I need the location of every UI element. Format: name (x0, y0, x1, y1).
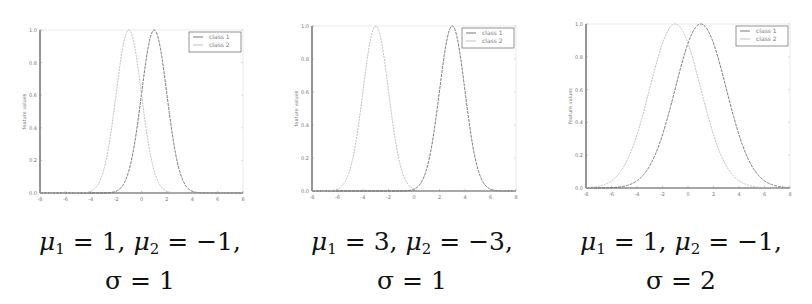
mu2-value: = −1, (700, 227, 782, 256)
x-tick-label: 8 (514, 194, 517, 200)
y-tick-label: 0.6 (301, 89, 309, 95)
panel-1: -8-6-4-2024680.00.20.40.60.81.0feature v… (0, 0, 270, 304)
x-tick-label: -2 (386, 194, 391, 200)
y-tick-label: 0.2 (575, 152, 583, 158)
x-tick-label: 2 (712, 191, 715, 197)
sigma-value: σ = 1 (5, 265, 275, 296)
y-tick-label: 0.4 (301, 122, 309, 128)
y-tick-label: 1.0 (301, 23, 309, 29)
curve-class-2 (586, 24, 790, 188)
x-tick-label: -8 (584, 191, 589, 197)
y-tick-label: 0.0 (301, 188, 309, 194)
legend-label: class 1 (756, 27, 777, 34)
sigma-value: σ = 2 (550, 265, 812, 296)
sigma-value: σ = 1 (277, 265, 547, 296)
plot-frame (586, 24, 790, 188)
y-tick-label: 0.0 (575, 185, 583, 191)
x-tick-label: 4 (737, 191, 740, 197)
legend-label: class 2 (756, 35, 777, 42)
curve-class-2 (40, 30, 243, 193)
x-tick-label: -4 (361, 194, 366, 200)
mu1-symbol: μ (39, 227, 55, 256)
panel-3: -8-6-4-2024680.00.20.40.60.81.0feature v… (550, 0, 812, 304)
y-tick-label: 0.2 (301, 155, 309, 161)
legend-label: class 1 (482, 29, 503, 36)
plot-frame (312, 26, 516, 191)
y-tick-label: 0.2 (29, 157, 37, 163)
mu2-symbol: μ (134, 227, 150, 256)
x-tick-label: -4 (88, 196, 93, 202)
y-tick-label: 0.8 (29, 60, 37, 66)
mu1-value: = 3, (337, 227, 406, 256)
x-tick-label: 4 (191, 196, 194, 202)
curve-class-1 (586, 24, 790, 188)
y-tick-label: 1.0 (29, 27, 37, 33)
x-tick-label: 8 (788, 191, 791, 197)
legend-label: class 1 (209, 33, 230, 40)
y-tick-label: 0.8 (301, 56, 309, 62)
x-tick-label: -2 (114, 196, 119, 202)
chart-2: -8-6-4-2024680.00.20.40.60.81.0feature v… (277, 0, 547, 215)
x-tick-label: 0 (412, 194, 415, 200)
chart-1: -8-6-4-2024680.00.20.40.60.81.0feature v… (0, 0, 270, 215)
x-tick-label: -8 (310, 194, 315, 200)
x-tick-label: 0 (686, 191, 689, 197)
y-tick-label: 0.8 (575, 54, 583, 60)
curve-class-1 (40, 30, 243, 193)
curve-class-2 (312, 26, 516, 191)
legend: class 1class 2 (189, 32, 241, 52)
mu2-symbol: μ (406, 227, 422, 256)
mu2-subscript: 2 (150, 240, 160, 258)
x-tick-label: 6 (216, 196, 219, 202)
mu1-symbol: μ (311, 227, 327, 256)
y-tick-label: 0.6 (575, 87, 583, 93)
x-tick-label: 4 (463, 194, 466, 200)
x-tick-label: -6 (63, 196, 68, 202)
mu2-value: = −3, (431, 227, 513, 256)
x-tick-label: 0 (140, 196, 143, 202)
mu1-value: = 1, (606, 227, 675, 256)
mu2-subscript: 2 (422, 240, 432, 258)
x-tick-label: -6 (335, 194, 340, 200)
x-tick-label: 2 (438, 194, 441, 200)
x-tick-label: 8 (241, 196, 244, 202)
mu1-subscript: 1 (55, 240, 65, 258)
panel-2: -8-6-4-2024680.00.20.40.60.81.0feature v… (277, 0, 547, 304)
y-tick-label: 0.0 (29, 190, 37, 196)
x-tick-label: -6 (609, 191, 614, 197)
curve-class-1 (312, 26, 516, 191)
y-tick-label: 0.4 (575, 119, 583, 125)
caption-2: μ1 = 3, μ2 = −3, σ = 1 (277, 226, 547, 296)
y-axis-label: feature values (567, 88, 573, 124)
x-tick-label: -4 (635, 191, 640, 197)
x-tick-label: -2 (660, 191, 665, 197)
x-tick-label: 6 (763, 191, 766, 197)
caption-1: μ1 = 1, μ2 = −1, σ = 1 (5, 226, 275, 296)
mu1-value: = 1, (65, 227, 134, 256)
legend-label: class 2 (209, 41, 230, 48)
mu2-value: = −1, (159, 227, 241, 256)
legend-label: class 2 (482, 37, 503, 44)
legend: class 1class 2 (462, 28, 514, 48)
x-tick-label: -8 (38, 196, 43, 202)
mu1-subscript: 1 (596, 240, 606, 258)
mu2-symbol: μ (675, 227, 691, 256)
x-tick-label: 6 (489, 194, 492, 200)
y-axis-label: feature values (21, 93, 27, 129)
plot-frame (40, 30, 243, 193)
mu2-subscript: 2 (691, 240, 701, 258)
y-axis-label: feature values (293, 90, 299, 126)
mu1-symbol: μ (580, 227, 596, 256)
mu1-subscript: 1 (327, 240, 337, 258)
y-tick-label: 1.0 (575, 21, 583, 27)
legend: class 1class 2 (736, 26, 788, 46)
y-tick-label: 0.4 (29, 125, 37, 131)
y-tick-label: 0.6 (29, 92, 37, 98)
chart-3: -8-6-4-2024680.00.20.40.60.81.0feature v… (550, 0, 812, 215)
x-tick-label: 2 (165, 196, 168, 202)
caption-3: μ1 = 1, μ2 = −1, σ = 2 (550, 226, 812, 296)
